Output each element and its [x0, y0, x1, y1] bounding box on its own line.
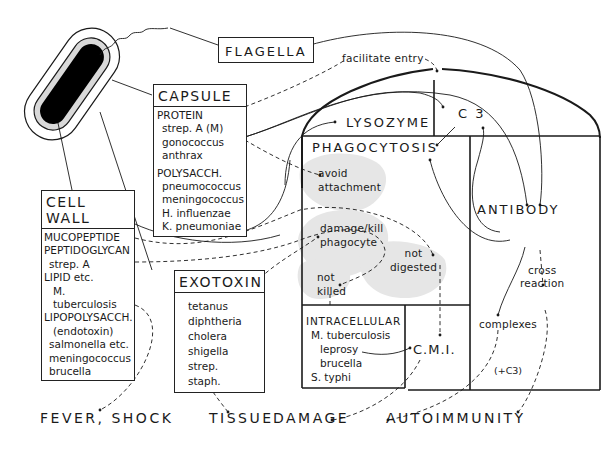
capsule-protein-item: gonococcus: [157, 136, 243, 149]
exotoxin-item: diphtheria: [188, 314, 264, 329]
exotoxin-item: tetanus: [188, 299, 264, 314]
cell-wall-row: brucella: [44, 365, 131, 378]
not-digested-label: not digested: [390, 246, 437, 274]
intracellular-title: INTRACELLULAR: [306, 314, 401, 328]
flagella-label: FLAGELLA: [225, 44, 307, 59]
capsule-protein-header: PROTEIN: [157, 109, 243, 122]
exotoxin-title: EXOTOXIN: [175, 271, 264, 293]
cross-reaction-label: cross reaction: [520, 264, 564, 290]
intracellular-item: S. typhi: [306, 370, 401, 384]
cell-wall-row: salmonella etc.: [44, 338, 131, 351]
exotoxin-item: shigella: [188, 344, 264, 359]
cmi-label: C.M.I.: [413, 343, 456, 356]
cell-wall-row: M. tuberculosis: [44, 285, 131, 312]
cell-wall-row: meningococcus: [44, 352, 131, 365]
exotoxin-item: strep.: [188, 359, 264, 374]
capsule-box: CAPSULE PROTEIN strep. A (M) gonococcus …: [153, 84, 247, 237]
capsule-polysacch-header: POLYSACCH.: [157, 167, 243, 180]
phagocytosis-label: PHAGOCYTOSIS: [312, 141, 438, 154]
cell-wall-box: CELL WALL MUCOPEPTIDE PEPTIDOGLYCAN stre…: [41, 190, 135, 381]
plus-c3-label: (+C3): [494, 366, 522, 376]
intracellular-item: brucella: [306, 356, 401, 370]
cell-wall-row: strep. A: [44, 258, 131, 271]
cell-wall-row: (endotoxin): [44, 325, 131, 338]
capsule-polysacch-item: H. influenzae: [157, 207, 243, 220]
fever-shock-label: FEVER, SHOCK: [40, 411, 173, 425]
damage-kill-phagocyte-label: damage/kill phagocyte: [320, 221, 383, 249]
avoid-attachment-label: avoid attachment: [318, 166, 381, 194]
not-killed-label: not killed: [317, 270, 346, 298]
cell-wall-title: CELL WALL: [42, 191, 134, 229]
exotoxin-item: staph.: [188, 374, 264, 389]
flagella-box: FLAGELLA: [218, 37, 314, 63]
antibody-label: ANTIBODY: [477, 203, 560, 216]
c3-label: C 3: [458, 107, 485, 120]
capsule-polysacch-item: meningococcus: [157, 193, 243, 206]
exotoxin-item: cholera: [188, 329, 264, 344]
autoimmunity-label: AUTOIMMUNITY: [386, 411, 526, 425]
intracellular-item: M. tuberculosis: [306, 328, 401, 342]
lysozyme-label: LYSOZYME: [346, 116, 430, 129]
cell-wall-row: MUCOPEPTIDE: [44, 231, 131, 244]
damage-label: DAMAGE: [273, 411, 349, 425]
capsule-polysacch-item: K. pneumoniae: [157, 220, 243, 233]
cell-wall-row: PEPTIDOGLYCAN: [44, 244, 131, 257]
bacterium-illustration: [14, 17, 131, 151]
tissue-label: TISSUE: [209, 411, 274, 425]
exotoxin-box: EXOTOXIN tetanus diphtheria cholera shig…: [174, 270, 265, 393]
capsule-protein-item: strep. A (M): [157, 122, 243, 135]
cell-wall-row: LIPOPOLYSACCH.: [44, 311, 131, 324]
capsule-polysacch-item: pneumococcus: [157, 180, 243, 193]
capsule-protein-item: anthrax: [157, 149, 243, 162]
intracellular-item: leprosy: [306, 342, 401, 356]
facilitate-entry-label: facilitate entry: [342, 53, 424, 64]
cell-wall-row: LIPID etc.: [44, 271, 131, 284]
complexes-label: complexes: [479, 319, 537, 330]
intracellular-list: INTRACELLULAR M. tuberculosis leprosy br…: [306, 314, 401, 384]
capsule-title: CAPSULE: [154, 85, 246, 107]
